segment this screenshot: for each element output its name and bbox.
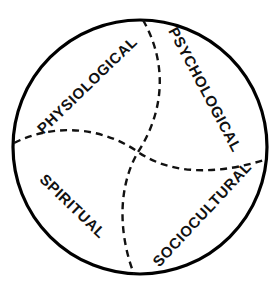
diagram-canvas: PHYSIOLOGICAL PSYCHOLOGICAL SPIRITUAL SO… xyxy=(0,0,280,296)
holistic-health-diagram: PHYSIOLOGICAL PSYCHOLOGICAL SPIRITUAL SO… xyxy=(0,0,280,296)
